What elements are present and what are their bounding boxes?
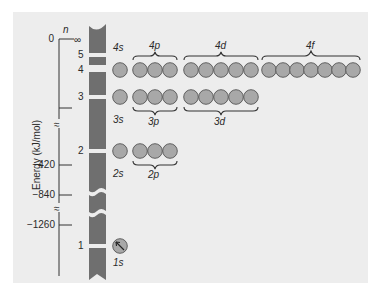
tick-label-840: −840 [32,189,55,200]
n-level-5: 5 [78,49,84,60]
n-level-4: 4 [78,64,84,75]
tick-label-0: 0 [48,33,54,44]
n-axis-label: n [63,24,69,35]
subshell-1s: 1s [113,239,128,268]
energy-bar [89,24,106,280]
energy-level-diagram: Energy (kJ/mol) ≈ ≈ 0 −420 −840 −1260 n … [0,0,382,298]
subshell-4p: 4p [133,40,178,77]
subshell-label-1s: 1s [113,257,124,268]
subshell-4f: 4f [262,40,361,77]
subshell-3s: 3s [113,90,128,125]
subshell-3p: 3p [133,90,178,127]
subshell-2p: 2p [133,144,178,180]
tick-label-420: −420 [32,159,55,170]
subshell-label-4s: 4s [113,42,124,53]
tick-label-1260: −1260 [27,219,56,230]
subshell-label-3s: 3s [113,114,124,125]
subshell-label-4f: 4f [306,40,316,51]
energy-axis: ≈ ≈ [54,39,74,276]
subshell-3d: 3d [184,90,259,127]
n-level-1: 1 [78,240,84,251]
axis-break-icon: ≈ [54,203,60,214]
subshell-label-2p: 2p [147,169,160,180]
n-level-3: 3 [78,91,84,102]
n-level-infinity: ∞ [74,34,81,45]
n-level-2: 2 [78,145,84,156]
axis-break-icon: ≈ [54,119,60,130]
subshell-label-3d: 3d [214,116,226,127]
subshell-4d: 4d [184,40,259,77]
subshell-4s: 4s [113,42,128,77]
y-axis-label: Energy (kJ/mol) [31,120,42,190]
subshell-label-3p: 3p [148,116,160,127]
subshell-label-4p: 4p [149,40,161,51]
subshell-label-4d: 4d [215,40,227,51]
subshell-label-2s: 2s [112,168,124,179]
subshell-2s: 2s [112,144,127,179]
